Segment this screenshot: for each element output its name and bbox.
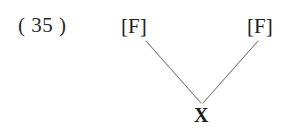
figure-container: ( 35 ) [F] [F] X [0,0,293,140]
edge-left-f-to-x [146,41,201,103]
root-node: X [194,103,208,127]
tree-diagram: [F] [F] X [0,0,293,140]
left-feature-node: [F] [121,14,147,38]
right-feature-node: [F] [247,14,273,38]
edge-right-f-to-x [203,41,258,103]
